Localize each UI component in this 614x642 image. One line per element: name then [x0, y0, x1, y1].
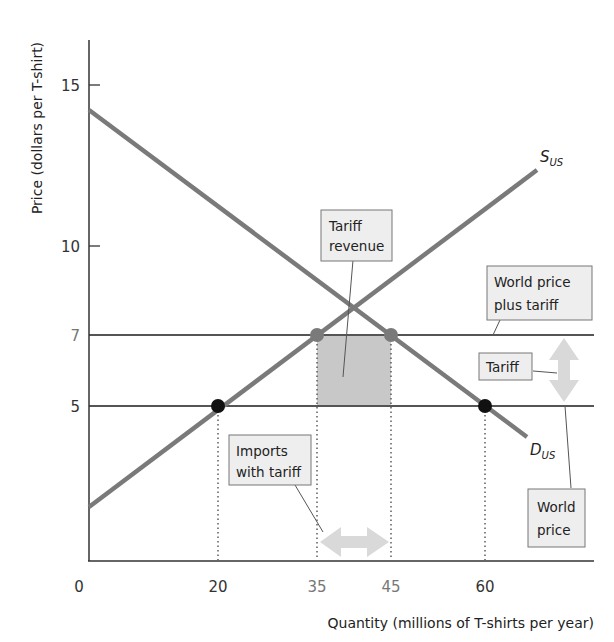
point-supply-20	[211, 399, 225, 413]
world-price-plus-tariff-label-1: World price	[494, 274, 571, 290]
x-tick-0: 0	[74, 578, 84, 596]
y-tick-5: 5	[70, 398, 80, 416]
y-tick-7: 7	[70, 327, 80, 345]
supply-label: SUS	[540, 148, 564, 168]
x-tick-45: 45	[381, 578, 400, 596]
imports-arrow-icon	[320, 527, 389, 557]
x-tick-60: 60	[475, 578, 494, 596]
x-tick-35: 35	[307, 578, 326, 596]
tariff-revenue-area	[317, 335, 391, 406]
y-tick-10: 10	[61, 238, 80, 256]
x-axis-title: Quantity (millions of T-shirts per year)	[328, 615, 595, 631]
demand-label: DUS	[530, 441, 556, 461]
tariff-revenue-label-2: revenue	[329, 238, 384, 254]
tariff-chart: Tariff revenue World price plus tariff T…	[0, 0, 614, 642]
tariff-arrow-icon	[549, 338, 579, 402]
imports-label-2: with tariff	[236, 464, 302, 480]
world-price-plus-tariff-label-2: plus tariff	[494, 297, 559, 313]
tariff-revenue-label-1: Tariff	[328, 218, 363, 234]
y-axis-title: Price (dollars per T-shirt)	[29, 42, 45, 214]
imports-label-1: Imports	[236, 443, 288, 459]
point-supply-35	[310, 328, 324, 342]
world-price-label-2: price	[537, 522, 571, 538]
tariff-label: Tariff	[485, 359, 520, 375]
demand-curve	[89, 110, 527, 437]
world-price-box	[528, 489, 585, 547]
x-tick-20: 20	[208, 578, 227, 596]
y-tick-15: 15	[61, 77, 80, 95]
world-price-label-1: World	[537, 499, 576, 515]
point-demand-45	[384, 328, 398, 342]
point-demand-60	[478, 399, 492, 413]
